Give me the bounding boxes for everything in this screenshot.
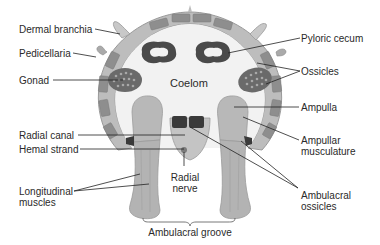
ampulla-right: [218, 96, 249, 142]
ambulacral-ossicle-left: [172, 116, 187, 128]
diagram-canvas: Coelom Dermal branchia Pedicellaria Gona…: [0, 0, 380, 245]
label-ambulacral-ossicles-line1: Ambulacral: [301, 190, 351, 201]
label-pyloric-cecum: Pyloric cecum: [301, 33, 363, 44]
label-longitudinal-muscles-line2: muscles: [19, 197, 56, 208]
label-gonad: Gonad: [19, 75, 49, 86]
label-ampullar-musculature-line1: Ampullar: [301, 135, 340, 146]
label-radial-canal: Radial canal: [19, 130, 74, 141]
spine-top: [188, 5, 192, 12]
dermal-branchia-left: [113, 22, 130, 38]
ambulacral-ossicle-right: [189, 116, 204, 128]
pyloric-cecum-right-lumen: [204, 48, 222, 57]
label-radial-nerve-line2: nerve: [170, 183, 200, 194]
label-radial-nerve-line1: Radial: [170, 172, 200, 183]
tube-foot-left: [129, 140, 160, 219]
label-ambulacral-ossicles-line2: ossicles: [301, 201, 337, 212]
label-pedicellaria: Pedicellaria: [19, 48, 71, 59]
label-ambulacral-groove: Ambulacral groove: [140, 227, 240, 238]
label-longitudinal-muscles-line1: Longitudinal: [19, 186, 73, 197]
ambulacral-groove-bracket: [143, 218, 235, 226]
label-ampullar-musculature-line2: musculature: [301, 146, 355, 157]
label-hemal-strand: Hemal strand: [19, 144, 78, 155]
label-ossicles: Ossicles: [301, 66, 339, 77]
pyloric-cecum-left-lumen: [150, 48, 168, 57]
pedicellaria-left: [97, 46, 107, 55]
label-ampulla: Ampulla: [301, 102, 337, 113]
coelom-label: Coelom: [170, 78, 208, 89]
tube-foot-right: [220, 140, 251, 219]
pedicellaria-right: [276, 49, 286, 56]
label-dermal-branchia: Dermal branchia: [19, 24, 92, 35]
